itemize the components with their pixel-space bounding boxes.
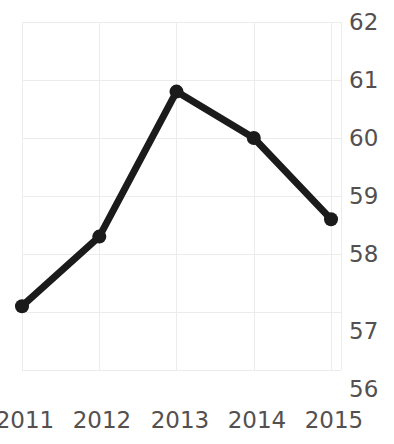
x-tick-label-2015: 2015 bbox=[289, 407, 379, 433]
x-tick-label-2012: 2012 bbox=[57, 407, 147, 433]
line-chart: Median trend 62 61 60 59 58 57 56 2011 bbox=[0, 0, 394, 444]
x-axis-labels: 2011 2012 2013 2014 2015 bbox=[0, 0, 394, 444]
